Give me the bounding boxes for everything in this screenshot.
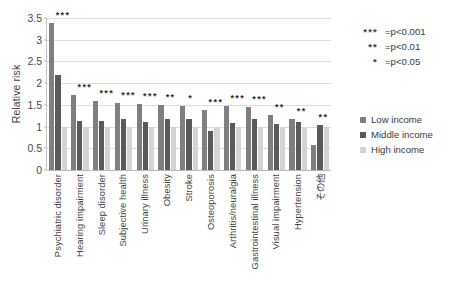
x-axis-label-text: Obesity	[162, 174, 172, 206]
x-axis-label: Sleep disorder	[91, 172, 113, 300]
x-axis-label-text: Hypertension	[293, 174, 303, 230]
y-tick-label: 3.5	[27, 12, 42, 24]
bar-high	[171, 127, 176, 170]
y-tick-label: 0.5	[27, 142, 42, 154]
bar-high	[105, 127, 110, 170]
bar-low	[158, 105, 163, 170]
x-axis-label: Visual impairment	[265, 172, 287, 300]
x-axis-label: Hypertension	[287, 172, 309, 300]
significance-key-row: ***=p<0.001	[352, 26, 426, 41]
bar-low	[71, 95, 76, 170]
legend-swatch-icon	[360, 132, 366, 138]
bar-low	[93, 101, 98, 170]
y-tick-label: 1	[36, 121, 42, 133]
bar-high	[258, 127, 263, 170]
y-tick-label: 1.5	[27, 99, 42, 111]
bar-mid	[186, 119, 191, 170]
bar-group: ***	[47, 18, 69, 170]
x-axis-label: Psychiatric disorder	[47, 172, 69, 300]
legend-label: Middle income	[371, 129, 433, 140]
significance-marker: **	[319, 113, 329, 122]
bar-group: *	[178, 18, 200, 170]
significance-key-text: =p<0.05	[385, 56, 420, 67]
bar-mid	[121, 119, 126, 170]
bar-mid	[143, 122, 148, 170]
significance-key-text: =p<0.01	[385, 41, 420, 52]
legend-label: Low income	[371, 114, 422, 125]
x-axis-label-text: Visual impairment	[271, 174, 281, 249]
x-axis-label-text: Arthritis/neuralgia	[228, 174, 238, 248]
x-axis-label: Urinary illness	[134, 172, 156, 300]
bar-mid	[165, 119, 170, 170]
bar-low	[268, 115, 273, 170]
x-axis-label: その他	[309, 172, 331, 300]
significance-marker: *	[188, 94, 193, 103]
x-axis-label: Osteoporosis	[200, 172, 222, 300]
bar-groups: *********************************	[47, 18, 331, 170]
y-tick-label: 2	[36, 77, 42, 89]
x-axis-label-text: Hearing impairment	[75, 174, 85, 257]
significance-marker: **	[166, 93, 176, 102]
bar-group: ***	[113, 18, 135, 170]
y-tick-label: 0	[36, 164, 42, 176]
bar-group: ***	[69, 18, 91, 170]
bar-high	[324, 127, 329, 170]
legend-item[interactable]: Low income	[360, 112, 433, 127]
bar-group: **	[287, 18, 309, 170]
x-axis-label: Obesity	[156, 172, 178, 300]
significance-marker: **	[297, 107, 307, 116]
bar-high	[83, 127, 88, 170]
bar-mid	[55, 75, 60, 170]
gridline	[47, 170, 331, 171]
x-axis-category-labels: Psychiatric disorderHearing impairmentSl…	[47, 172, 331, 300]
bar-group: **	[309, 18, 331, 170]
x-axis-label-text: Urinary illness	[140, 174, 150, 234]
relative-risk-bar-chart: Relative risk 00.511.522.533.5 *********…	[0, 0, 451, 305]
significance-key-stars: *	[352, 56, 378, 67]
bar-low	[289, 119, 294, 170]
bar-mid	[230, 123, 235, 170]
bar-mid	[99, 121, 104, 170]
y-axis-title: Relative risk	[10, 49, 22, 139]
bar-group: ***	[200, 18, 222, 170]
significance-key-stars: ***	[352, 26, 378, 37]
bar-group: ***	[244, 18, 266, 170]
bar-low	[311, 145, 316, 170]
bar-high	[193, 127, 198, 170]
bar-mid	[317, 125, 322, 170]
x-axis-label: Stroke	[178, 172, 200, 300]
bar-high	[127, 127, 132, 170]
bar-group: ***	[91, 18, 113, 170]
bar-group: **	[156, 18, 178, 170]
significance-key: ***=p<0.001**=p<0.01*=p<0.05	[352, 26, 426, 71]
bar-high	[302, 127, 307, 170]
legend-item[interactable]: High income	[360, 142, 433, 157]
bar-low	[49, 23, 54, 170]
bar-mid	[274, 124, 279, 170]
bar-mid	[296, 122, 301, 170]
x-axis-label: Subjective health	[113, 172, 135, 300]
x-axis-label-text: Osteoporosis	[206, 174, 216, 230]
legend-label: High income	[371, 144, 424, 155]
bar-high	[236, 127, 241, 170]
x-axis-label-text: Sleep disorder	[97, 174, 107, 235]
legend-item[interactable]: Middle income	[360, 127, 433, 142]
x-axis-label-text: Stroke	[184, 174, 194, 201]
x-axis-label: Hearing impairment	[69, 172, 91, 300]
significance-key-row: **=p<0.01	[352, 41, 426, 56]
legend-swatch-icon	[360, 117, 366, 123]
x-axis-label-text: その他	[313, 174, 327, 201]
bar-group: **	[265, 18, 287, 170]
bar-mid	[77, 121, 82, 171]
x-axis-label: Gastrointestinal illness	[244, 172, 266, 300]
bar-high	[214, 127, 219, 170]
bar-group: ***	[222, 18, 244, 170]
bar-low	[202, 110, 207, 170]
x-axis-label-text: Subjective health	[118, 174, 128, 247]
plot-area: 00.511.522.533.5 ***********************…	[47, 18, 331, 170]
bar-high	[62, 127, 67, 170]
legend-swatch-icon	[360, 147, 366, 153]
significance-marker: **	[275, 103, 285, 112]
bar-high	[149, 127, 154, 170]
y-tick-label: 3	[36, 34, 42, 46]
